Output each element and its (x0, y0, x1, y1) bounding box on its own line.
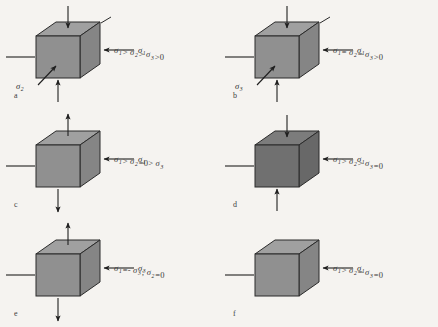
stress-panel-a: σ3σ1σ2σ1> σ2> σ3>0a (0, 0, 219, 109)
corner-tick (101, 17, 111, 23)
panel-letter-c: c (14, 200, 18, 209)
stress-panel-c: σ1σ1σ1> σ2=0> σ3c (0, 109, 219, 218)
cube-b (255, 22, 319, 78)
stress-panel-f: σ1σ1> σ2= σ3=0f (219, 218, 438, 327)
panel-letter-f: f (233, 309, 236, 318)
stress-panel-d: σ2σ1σ1> σ2> σ3=0d (219, 109, 438, 218)
panel-letter-b: b (233, 91, 237, 100)
panel-letter-e: e (14, 309, 18, 318)
panel-letter-a: a (14, 91, 18, 100)
stress-panel-b: σ2σ1σ3σ1= σ2= σ3>0b (219, 0, 438, 109)
corner-tick (320, 17, 330, 23)
panel-letter-d: d (233, 200, 237, 209)
cube-f (255, 240, 319, 296)
cube-c (36, 131, 100, 187)
stress-state-figure: σ3σ1σ2σ1> σ2> σ3>0aσ2σ1σ3σ1= σ2= σ3>0bσ1… (0, 0, 438, 327)
cube-e (36, 240, 100, 296)
cube-d (255, 131, 319, 187)
stress-panel-e: σ3σ3σ1=- σ3; σ2=0e (0, 218, 219, 327)
cube-a (36, 22, 100, 78)
